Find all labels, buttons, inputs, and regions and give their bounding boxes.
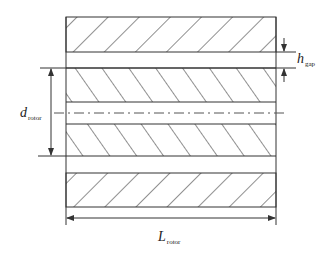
l-rotor-label: Lrotor xyxy=(158,230,180,246)
rotor-diagram xyxy=(0,0,330,253)
upper-stator xyxy=(66,17,276,52)
h-gap-label: hgap xyxy=(297,52,315,68)
d-rotor-label: drotor xyxy=(20,106,42,122)
lower-stator xyxy=(66,173,276,207)
rotor-upper xyxy=(66,68,276,102)
rotor-lower xyxy=(66,124,276,156)
